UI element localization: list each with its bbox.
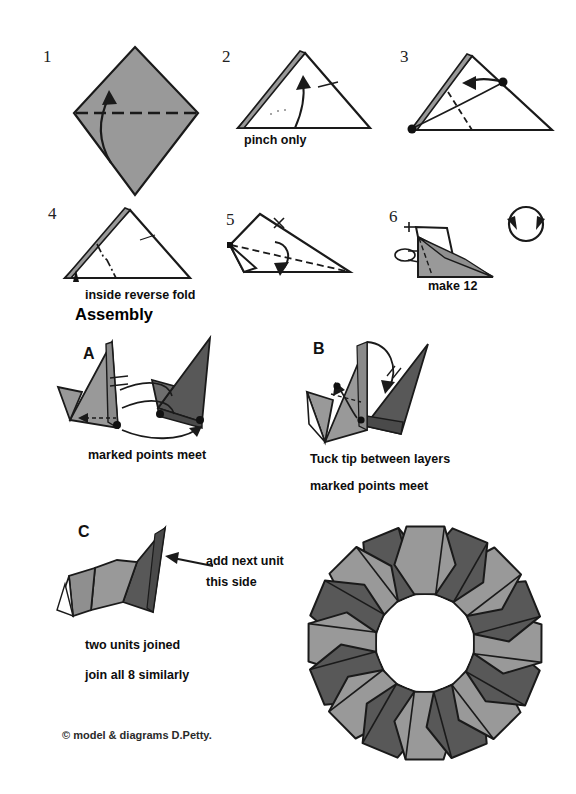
caption-pinch-only: pinch only bbox=[244, 133, 307, 147]
swing-arrow-head bbox=[189, 426, 202, 437]
origami-diagram-page: 1 2 pinch only 3 bbox=[0, 0, 576, 794]
figure-step-1 bbox=[40, 35, 210, 210]
figure-step-5 bbox=[218, 200, 378, 290]
caption-a-marked-points-meet: marked points meet bbox=[88, 448, 206, 462]
square-rotated bbox=[74, 47, 198, 195]
ring-canvas bbox=[288, 512, 563, 774]
marked-point bbox=[499, 78, 508, 87]
caption-b-marked-points-meet: marked points meet bbox=[310, 479, 428, 493]
caption-c-join-all-8: join all 8 similarly bbox=[85, 668, 189, 682]
figure-step-4 bbox=[40, 198, 220, 290]
caption-inside-reverse-fold: inside reverse fold bbox=[85, 288, 195, 302]
ring-center-hole bbox=[377, 595, 473, 691]
copyright-line: © model & diagrams D.Petty. bbox=[62, 729, 212, 741]
assembly-heading: Assembly bbox=[75, 305, 153, 324]
tuck-arrow-path bbox=[367, 342, 393, 388]
figure-step-6 bbox=[383, 215, 508, 287]
marked-point bbox=[227, 242, 233, 248]
triangle-body bbox=[65, 210, 190, 278]
caption-b-tuck-tip: Tuck tip between layers bbox=[310, 452, 450, 466]
final-model-ring bbox=[288, 512, 563, 774]
marked-point bbox=[333, 382, 340, 389]
caption-make-12: make 12 bbox=[428, 279, 477, 293]
figure-assembly-b bbox=[295, 330, 525, 448]
turn-over-symbol bbox=[495, 200, 557, 252]
annotation-add-next-unit: add next unit bbox=[206, 554, 284, 568]
figure-assembly-a bbox=[50, 330, 300, 445]
swing-arrow-path bbox=[122, 430, 196, 438]
caption-c-two-units-joined: two units joined bbox=[85, 638, 180, 652]
annotation-this-side: this side bbox=[206, 575, 257, 589]
marked-point bbox=[408, 125, 417, 134]
figure-step-3 bbox=[390, 40, 570, 150]
marked-point bbox=[113, 421, 121, 429]
right-unit-main bbox=[158, 338, 210, 422]
marked-point bbox=[357, 416, 364, 423]
marked-point bbox=[196, 416, 204, 424]
marked-point bbox=[156, 410, 164, 418]
add-unit-arrow-head bbox=[165, 552, 179, 564]
